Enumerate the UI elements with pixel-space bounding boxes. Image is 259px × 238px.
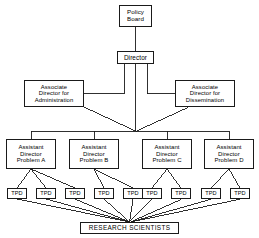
asst-a-label-1: Assistant (18, 144, 43, 151)
tpd-7-label: TPD (175, 190, 187, 196)
asst-d-label-3: Problem D (214, 157, 243, 164)
asst-b-label-1: Assistant (81, 144, 106, 151)
assoc-diss-label-1: Associate (192, 84, 218, 91)
edge-tpd7-research (130, 199, 182, 222)
node-research-scientists[interactable]: RESEARCH SCIENTISTS (80, 222, 179, 234)
node-assistant-director-problem-c[interactable]: Assistant Director Problem C (142, 139, 192, 169)
edge-assoc-diss-junction (136, 107, 189, 131)
node-tpd-3[interactable]: TPD (65, 188, 85, 199)
edge-tpd8-research (130, 199, 212, 222)
node-tpd-5[interactable]: TPD (123, 188, 143, 199)
edge-asst-d-tpd8 (211, 169, 229, 188)
asst-a-label-3: Problem A (17, 157, 46, 164)
asst-c-label-1: Assistant (154, 144, 179, 151)
tpd-3-label: TPD (69, 190, 81, 196)
asst-a-label-2: Director (20, 151, 42, 158)
asst-c-label-2: Director (156, 151, 178, 158)
edge-asst-c-tpd6 (152, 169, 167, 188)
director-label: Director (124, 54, 147, 61)
edge-asst-b-tpd5 (94, 169, 133, 188)
tpd-6-label: TPD (146, 190, 158, 196)
node-associate-director-administration[interactable]: Associate Director for Administration (24, 80, 84, 107)
node-assistant-director-problem-a[interactable]: Assistant Director Problem A (6, 139, 56, 169)
edge-tpd1-research (17, 199, 130, 222)
asst-c-label-3: Problem C (152, 157, 181, 164)
asst-d-label-1: Assistant (216, 144, 241, 151)
node-assistant-director-problem-d[interactable]: Assistant Director Problem D (204, 139, 254, 169)
policy-board-label-2: Board (127, 16, 144, 23)
tpd-2-label: TPD (40, 190, 52, 196)
asst-b-label-3: Problem B (80, 157, 109, 164)
assoc-diss-label-3: Dissemination (186, 97, 224, 104)
asst-d-label-2: Director (218, 151, 240, 158)
connector-lines (0, 0, 259, 238)
tpd-5-label: TPD (127, 190, 139, 196)
edge-asst-d-tpd9 (229, 169, 240, 188)
edge-asst-a-tpd1 (17, 169, 31, 188)
assoc-admin-label-3: Administration (35, 97, 74, 104)
edge-tpd9-research (130, 199, 241, 222)
node-policy-board[interactable]: Policy Board (119, 5, 152, 27)
edge-asst-a-tpd3 (31, 169, 75, 188)
edge-tpd3-research (75, 199, 130, 222)
org-chart: Policy Board Director Associate Director… (0, 0, 259, 238)
node-tpd-6[interactable]: TPD (142, 188, 162, 199)
node-associate-director-dissemination[interactable]: Associate Director for Dissemination (175, 80, 235, 107)
node-tpd-9[interactable]: TPD (230, 188, 250, 199)
node-tpd-4[interactable]: TPD (94, 188, 114, 199)
tpd-4-label: TPD (98, 190, 110, 196)
node-tpd-2[interactable]: TPD (36, 188, 56, 199)
assoc-diss-label-2: Director for (190, 90, 220, 97)
tpd-9-label: TPD (234, 190, 246, 196)
node-tpd-7[interactable]: TPD (171, 188, 191, 199)
node-assistant-director-problem-b[interactable]: Assistant Director Problem B (69, 139, 119, 169)
node-tpd-8[interactable]: TPD (201, 188, 221, 199)
assoc-admin-label-2: Director for (39, 90, 69, 97)
edge-assoc-admin-junction (84, 107, 136, 131)
research-scientists-label: RESEARCH SCIENTISTS (89, 224, 171, 231)
edge-asst-c-tpd7 (167, 169, 181, 188)
node-tpd-1[interactable]: TPD (7, 188, 27, 199)
asst-b-label-2: Director (83, 151, 105, 158)
tpd-8-label: TPD (205, 190, 217, 196)
node-director[interactable]: Director (117, 51, 154, 64)
tpd-1-label: TPD (11, 190, 23, 196)
assoc-admin-label-1: Associate (41, 84, 67, 91)
